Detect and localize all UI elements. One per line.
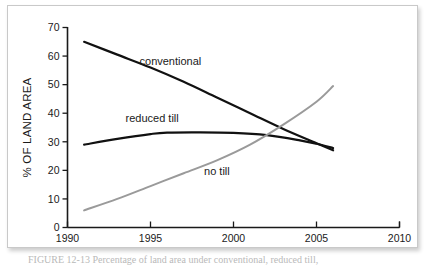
figure-caption-text: FIGURE 12-13 Percentage of land area und…: [28, 255, 418, 265]
series-line-conventional: [84, 42, 333, 151]
figure-root: 010203040506070 19901995200020052010 con…: [0, 0, 430, 267]
y-tick-label: 70: [48, 21, 60, 33]
x-tick-label: 1990: [56, 232, 80, 244]
y-tick-label: 40: [48, 107, 60, 119]
y-tick-label: 50: [48, 78, 60, 90]
y-axis-title: % OF LAND AREA: [21, 77, 33, 177]
y-tick-label: 10: [48, 193, 60, 205]
figure-caption: FIGURE 12-13 Percentage of land area und…: [28, 255, 418, 265]
chart-axes: [68, 27, 400, 228]
x-tick-label: 2000: [222, 232, 246, 244]
y-tick-label: 60: [48, 50, 60, 62]
y-axis-title-group: % OF LAND AREA: [21, 77, 33, 177]
x-tick-label: 2010: [388, 232, 412, 244]
x-axis-ticks: 19901995200020052010: [56, 222, 412, 244]
x-tick-label: 2005: [305, 232, 329, 244]
y-axis-ticks: 010203040506070: [48, 21, 68, 233]
x-tick-label: 1995: [139, 232, 163, 244]
line-chart: 010203040506070 19901995200020052010 con…: [0, 0, 430, 267]
series-label-reduced-till: reduced till: [126, 112, 179, 124]
y-tick-label: 30: [48, 136, 60, 148]
series-label-no-till: no till: [204, 165, 230, 177]
chart-series-group: [84, 42, 333, 211]
series-line-no-till: [84, 86, 333, 210]
y-tick-label: 20: [48, 164, 60, 176]
series-labels-group: conventionalreduced tillno till: [126, 55, 230, 177]
series-label-conventional: conventional: [140, 55, 202, 67]
